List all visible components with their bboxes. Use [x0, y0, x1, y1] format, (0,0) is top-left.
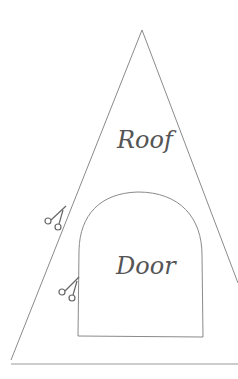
- roof-label: Roof: [117, 126, 173, 154]
- door-label: Door: [116, 252, 176, 280]
- template-diagram: [0, 0, 238, 379]
- scissors-icon: [45, 206, 66, 230]
- roof-outline: [11, 30, 238, 360]
- scissors-icon: [59, 277, 79, 301]
